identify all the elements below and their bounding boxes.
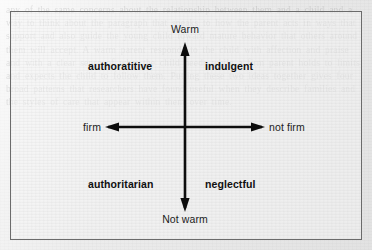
- quadrant-label-top-right: indulgent: [205, 60, 253, 72]
- quadrant-label-top-left: authoratitive: [88, 60, 152, 72]
- quadrant-label-bottom-right: neglectful: [205, 178, 256, 190]
- axis-label-not-firm: not firm: [269, 121, 305, 133]
- scanned-page: any of the same concerns about the relat…: [0, 0, 372, 250]
- axis-label-not-warm: Not warm: [162, 213, 208, 225]
- axis-label-firm: firm: [83, 121, 101, 133]
- quadrant-label-bottom-left: authoritarian: [88, 178, 153, 190]
- diagram-frame: [10, 11, 362, 240]
- axis-label-warm: Warm: [171, 23, 199, 35]
